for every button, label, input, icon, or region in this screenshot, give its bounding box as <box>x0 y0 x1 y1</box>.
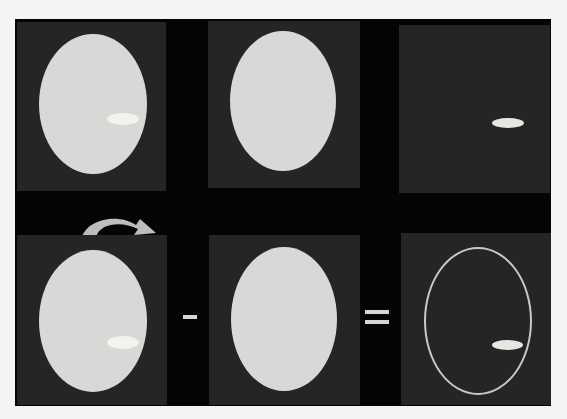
minus-sign <box>183 315 197 319</box>
figure-frame <box>15 19 551 406</box>
lesion-ellipse <box>492 340 523 350</box>
phantom-ellipse <box>230 31 336 171</box>
ring-artifact <box>424 247 532 395</box>
lesion-ellipse <box>492 118 524 128</box>
panel-top-middle-baseline <box>208 21 360 188</box>
curved-arrow-icon <box>80 215 160 237</box>
panel-bottom-right-difference <box>401 233 551 405</box>
equals-sign-top <box>365 310 389 314</box>
panel-top-left-image-with-lesion <box>17 22 166 191</box>
phantom-ellipse <box>39 250 147 392</box>
phantom-ellipse <box>39 34 147 174</box>
panel-top-right-lesion-only <box>399 25 550 193</box>
lesion-ellipse <box>107 113 139 125</box>
equals-sign-bottom <box>365 320 389 324</box>
lesion-ellipse <box>107 336 139 349</box>
panel-bottom-left-image-with-lesion <box>17 235 167 405</box>
phantom-ellipse <box>231 247 337 391</box>
panel-bottom-middle-baseline <box>209 235 360 405</box>
